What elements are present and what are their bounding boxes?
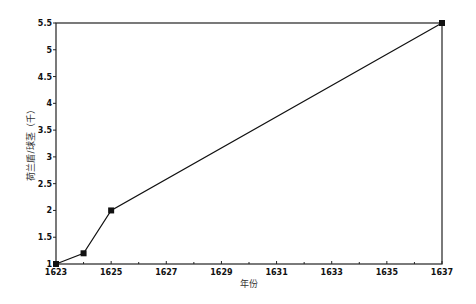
square-marker-icon <box>53 261 59 267</box>
x-tick-label: 1635 <box>376 268 399 277</box>
x-tick-label: 1633 <box>321 268 343 277</box>
y-axis: 11.522.533.544.555.5 <box>38 19 56 269</box>
y-tick-label: 3.5 <box>38 126 53 135</box>
y-tick-label: 4 <box>46 99 52 108</box>
line-chart: 11.522.533.544.555.5 1623162516271629163… <box>0 0 476 304</box>
data-series <box>53 20 445 267</box>
x-tick-label: 1623 <box>45 268 67 277</box>
y-tick-label: 2 <box>46 206 52 215</box>
x-tick-label: 1629 <box>210 268 233 277</box>
y-tick-label: 2.5 <box>38 180 53 189</box>
square-marker-icon <box>439 20 445 26</box>
square-marker-icon <box>81 250 87 256</box>
y-tick-label: 1.5 <box>38 233 53 242</box>
x-axis-title: 年份 <box>240 278 258 289</box>
y-tick-label: 3 <box>46 153 52 162</box>
y-tick-label: 4.5 <box>38 73 53 82</box>
x-tick-label: 1625 <box>100 268 123 277</box>
y-axis-title: 荷兰盾/球茎（千） <box>25 105 36 180</box>
x-tick-label: 1637 <box>431 268 453 277</box>
plot-frame <box>56 23 442 264</box>
x-axis: 16231625162716291631163316351637 <box>45 261 453 277</box>
x-tick-label: 1627 <box>155 268 177 277</box>
x-tick-label: 1631 <box>265 268 288 277</box>
plot-border <box>56 23 442 264</box>
y-tick-label: 5.5 <box>38 19 53 28</box>
y-tick-label: 5 <box>46 46 52 55</box>
square-marker-icon <box>108 207 114 213</box>
series-line <box>56 23 442 264</box>
